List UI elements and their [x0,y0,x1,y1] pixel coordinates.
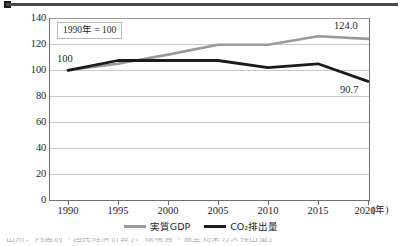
legend-swatch-gdp-icon [124,225,146,228]
footer-source-text: 出所：内閣府「国民経済計算」、環境省「温室効果ガス排出量」 [0,238,402,243]
footer-cropped-text: 出所：内閣府「国民経済計算」、環境省「温室効果ガス排出量」 [0,238,402,246]
value-label-start-100: 100 [57,53,73,64]
value-label-co2-end: 90.7 [340,84,358,95]
legend-item-co2: CO₂排出量 [204,221,278,232]
legend-item-gdp: 実質GDP [124,221,190,232]
chart-legend: 実質GDP CO₂排出量 [0,221,402,232]
baseline-note: 1990年 = 100 [57,22,122,39]
legend-label-gdp: 実質GDP [150,221,190,232]
legend-label-co2: CO₂排出量 [230,221,278,232]
value-label-gdp-end: 124.0 [334,20,358,31]
legend-swatch-co2-icon [204,225,226,228]
chart-figure: 140 120 100 80 60 40 20 0 1990 1995 2000… [0,0,402,246]
